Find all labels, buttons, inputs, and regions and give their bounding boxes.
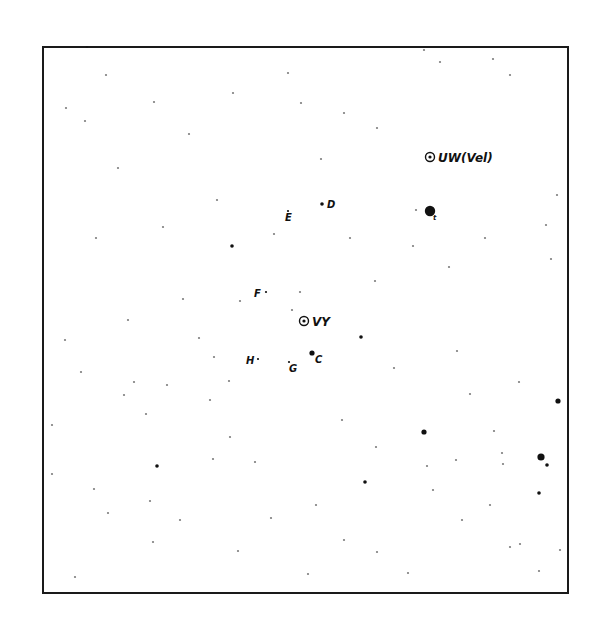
field-star	[80, 371, 82, 373]
field-star	[545, 463, 549, 467]
field-star	[179, 519, 181, 521]
variable-star-label: UW(Vel)	[438, 151, 493, 165]
field-star	[133, 381, 135, 383]
field-star	[162, 226, 164, 228]
field-star	[509, 74, 511, 76]
field-star	[145, 413, 147, 415]
field-star	[537, 491, 541, 495]
field-star	[300, 102, 302, 104]
comparison-star-label: t	[433, 214, 437, 222]
field-star	[93, 488, 95, 490]
field-star	[455, 459, 457, 461]
field-star	[287, 72, 289, 74]
field-star	[545, 224, 547, 226]
field-star	[230, 244, 234, 248]
field-star	[237, 550, 239, 552]
field-star	[117, 167, 119, 169]
field-star	[376, 551, 378, 553]
field-star	[166, 384, 168, 386]
field-star	[518, 381, 520, 383]
field-star	[232, 92, 234, 94]
field-star	[456, 350, 458, 352]
field-star	[376, 127, 378, 129]
field-star	[149, 500, 151, 502]
comparison-star-f	[265, 291, 267, 293]
field-star	[359, 335, 363, 339]
field-star	[412, 245, 414, 247]
field-star	[519, 543, 521, 545]
variable-stars-layer: UW(Vel)VY	[300, 151, 493, 329]
field-star	[501, 452, 503, 454]
field-star	[502, 463, 504, 465]
field-star	[127, 319, 129, 321]
variable-star-dot	[428, 155, 431, 158]
field-star	[423, 49, 425, 51]
field-star	[343, 539, 345, 541]
variable-star-dot	[302, 319, 305, 322]
field-star	[374, 280, 376, 282]
comparison-star-label: C	[315, 354, 323, 365]
field-star	[239, 300, 241, 302]
field-star	[493, 430, 495, 432]
comparison-star-label: F	[254, 288, 261, 299]
field-stars-layer	[51, 46, 561, 578]
field-star	[65, 107, 67, 109]
field-star	[415, 209, 417, 211]
field-star	[320, 158, 322, 160]
comparison-stars-layer: DEFCGHt	[246, 199, 437, 374]
comparison-star-label: D	[327, 199, 335, 210]
field-star	[439, 61, 441, 63]
field-star	[550, 258, 552, 260]
comparison-star-label: H	[246, 355, 255, 366]
comparison-star-label: E	[285, 212, 292, 223]
field-star	[213, 356, 215, 358]
field-star	[556, 194, 558, 196]
field-star	[538, 570, 540, 572]
field-star	[228, 380, 230, 382]
field-star	[555, 398, 560, 403]
field-star	[393, 367, 395, 369]
field-star	[64, 339, 66, 341]
field-star	[375, 446, 377, 448]
field-star	[74, 576, 76, 578]
field-star	[489, 504, 491, 506]
field-star	[152, 541, 154, 543]
field-star	[343, 112, 345, 114]
field-star	[105, 74, 107, 76]
comparison-star-d	[320, 202, 324, 206]
field-star	[363, 480, 367, 484]
field-star	[270, 517, 272, 519]
field-star	[212, 458, 214, 460]
star-field: DEFCGHt UW(Vel)VY	[0, 0, 591, 631]
comparison-star-label: G	[289, 363, 297, 374]
field-star	[484, 237, 486, 239]
field-star	[84, 120, 86, 122]
field-star	[95, 237, 97, 239]
field-star	[198, 337, 200, 339]
field-star	[349, 237, 351, 239]
field-star	[153, 101, 155, 103]
field-star	[51, 473, 53, 475]
field-star	[537, 453, 544, 460]
field-star	[188, 133, 190, 135]
field-star	[155, 464, 159, 468]
field-star	[432, 489, 434, 491]
field-star	[51, 424, 53, 426]
field-star	[273, 233, 275, 235]
field-star	[492, 58, 494, 60]
field-star	[182, 298, 184, 300]
field-star	[107, 512, 109, 514]
field-star	[341, 419, 343, 421]
variable-star-label: VY	[312, 315, 331, 329]
field-star	[307, 573, 309, 575]
comparison-star-h	[257, 358, 259, 360]
field-star	[315, 504, 317, 506]
field-star	[421, 429, 426, 434]
field-star	[254, 461, 256, 463]
field-star	[209, 399, 211, 401]
field-star	[509, 546, 511, 548]
field-star	[291, 309, 293, 311]
field-star	[407, 572, 409, 574]
field-star	[559, 549, 561, 551]
field-star	[86, 46, 88, 48]
